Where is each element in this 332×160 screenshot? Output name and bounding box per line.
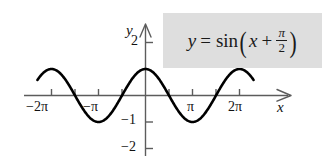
- x-tick-label-pi: π: [187, 99, 194, 115]
- equation-fraction-numerator: π: [276, 26, 287, 40]
- equation-fraction: π 2: [276, 26, 287, 54]
- equation-callout-box: y = sin ( x + π 2 ): [163, 13, 322, 68]
- equation-lhs: y: [187, 30, 197, 52]
- equation-fraction-denominator: 2: [277, 41, 288, 55]
- x-tick-label-neg-2pi: −2π: [26, 99, 48, 115]
- equation-equals-sign: =: [197, 30, 214, 52]
- y-tick-label-neg-2: −2: [121, 139, 136, 155]
- equation-sin-function: sin: [214, 30, 238, 52]
- x-tick-label-2pi: 2π: [228, 99, 242, 115]
- equation-paren-open: (: [239, 30, 246, 54]
- y-tick-label-neg-1: −1: [121, 112, 136, 128]
- trig-graph-figure: −2π −π π 2π 2 −1 −2 y x y = sin ( x + π: [0, 0, 332, 160]
- equation-paren-close: ): [290, 30, 297, 54]
- x-tick-label-neg-pi: −π: [83, 99, 98, 115]
- equation-plus-sign: +: [259, 30, 276, 52]
- equation-text: y = sin ( x + π 2 ): [163, 13, 322, 68]
- equation-argument-variable: x: [248, 30, 258, 52]
- y-axis-label: y: [126, 22, 133, 39]
- x-axis-label: x: [277, 99, 284, 116]
